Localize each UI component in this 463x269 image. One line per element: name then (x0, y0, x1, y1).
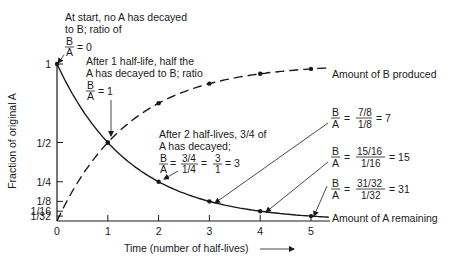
ratio-denominator: A (332, 189, 339, 201)
data-point-b (156, 101, 160, 105)
data-point-a (207, 199, 211, 203)
equals-sign: = (344, 183, 350, 195)
annotation-one-half-life: After 1 half-life, half the A has decaye… (86, 55, 203, 136)
y-tick-label: 1 (45, 58, 51, 70)
equals-sign: = (344, 151, 350, 163)
data-point-b (106, 140, 110, 144)
half-life-chart: 11/21/41/81/161/32 012345 Fraction of or… (0, 0, 463, 269)
annotation-one-line-2: A has decayed to B; ratio (86, 67, 203, 79)
eq-numerator: 15/16 (357, 146, 382, 157)
eq-denominator: 1/16 (361, 158, 381, 169)
eq1-numerator: 3/4 (182, 153, 196, 164)
x-tick-label: 1 (105, 225, 111, 237)
x-tick-label: 2 (156, 225, 162, 237)
result: = 7 (376, 112, 391, 124)
eq1-denominator: 1/4 (182, 164, 196, 175)
y-tick-label: 1/32 (31, 210, 52, 222)
x-tick-label: 3 (206, 225, 212, 237)
data-point-a (156, 180, 160, 184)
y-tick-label: 1/2 (36, 137, 51, 149)
ratio-denominator: A (87, 90, 94, 102)
equals-sign: = (201, 157, 207, 169)
annotation-two-line-2: A has decayed; (159, 140, 231, 152)
result: = 3 (225, 157, 240, 169)
y-axis-label: Fraction of original A (6, 93, 18, 189)
series-label-a: Amount of A remaining (332, 212, 438, 224)
y-tick-label: 1/4 (36, 176, 51, 188)
x-tick-label: 4 (257, 225, 263, 237)
eq-numerator: 7/8 (358, 107, 372, 118)
annotation-two-line-1: After 2 half-lives, 3/4 of (159, 128, 266, 140)
eq-denominator: 1/8 (358, 119, 372, 130)
series-label-b: Amount of B produced (332, 68, 437, 80)
annotation-start-line-2: to B; ratio of (65, 23, 122, 35)
data-point-b (207, 81, 211, 85)
ratio-value: = 1 (98, 85, 113, 97)
annotation-start-arrow (58, 55, 64, 63)
annotation-two-half-lives: After 2 half-lives, 3/4 of A has decayed… (159, 128, 266, 179)
result: = 31 (389, 183, 410, 195)
annotation-start-line-1: At start, no A has decayed (65, 11, 187, 23)
eq2-denominator: 1 (215, 164, 221, 175)
eq-numerator: 31/32 (357, 178, 382, 189)
ratio-denominator: A (66, 46, 73, 58)
ratio-value: = 0 (77, 41, 92, 53)
ratio-numerator: B (332, 145, 339, 157)
result: = 15 (389, 151, 410, 163)
equals-sign: = (170, 157, 176, 169)
data-point-b (309, 67, 313, 71)
data-point-a (258, 209, 262, 213)
x-tick-label: 5 (308, 225, 314, 237)
ratio-denominator: A (332, 118, 339, 130)
annotation-five-arrow (314, 186, 327, 216)
data-point-b (258, 72, 262, 76)
x-tick-label: 0 (54, 225, 60, 237)
data-point-a (309, 214, 313, 218)
equals-sign: = (344, 112, 350, 124)
eq-denominator: 1/32 (361, 190, 381, 201)
annotation-five-half-lives: B A = 31/32 1/32 = 31 (314, 177, 410, 216)
ratio-denominator: A (160, 163, 167, 175)
ratio-numerator: B (332, 106, 339, 118)
annotation-one-line-1: After 1 half-life, half the (86, 55, 194, 67)
ratio-numerator: B (332, 177, 339, 189)
eq2-numerator: 3 (215, 153, 221, 164)
ratio-denominator: A (332, 157, 339, 169)
x-axis-label: Time (number of half-lives) (124, 242, 248, 254)
